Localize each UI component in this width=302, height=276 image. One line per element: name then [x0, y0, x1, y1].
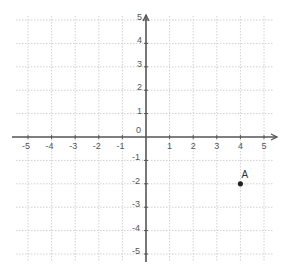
x-tick-label: -4 [46, 142, 54, 151]
y-tick-label: 1 [137, 107, 142, 116]
y-tick-label: 3 [137, 60, 142, 69]
y-tick-label: -4 [132, 224, 140, 233]
x-tick-label: 3 [214, 142, 219, 151]
y-tick-label: 4 [137, 36, 142, 45]
grid-lines [16, 16, 274, 262]
coordinate-plane [0, 0, 302, 276]
x-tick-label: -3 [69, 142, 77, 151]
plotted-points [238, 181, 243, 186]
y-tick-label: 2 [137, 83, 142, 92]
origin-label: 0 [136, 126, 141, 135]
y-tick-label: -2 [132, 177, 140, 186]
y-tick-label: -3 [132, 200, 140, 209]
y-tick-label: -1 [132, 153, 140, 162]
x-tick-label: 1 [167, 142, 172, 151]
point-label: A [241, 170, 248, 180]
x-tick-label: -2 [93, 142, 101, 151]
point-a [238, 181, 243, 186]
x-tick-label: 2 [191, 142, 196, 151]
x-tick-label: 5 [262, 142, 267, 151]
x-tick-label: -1 [116, 142, 124, 151]
y-tick-label: 5 [137, 13, 142, 22]
x-tick-label: 4 [238, 142, 243, 151]
y-tick-label: -5 [132, 247, 140, 256]
x-tick-label: -5 [22, 142, 30, 151]
